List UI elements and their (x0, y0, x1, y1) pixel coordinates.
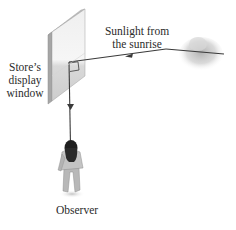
observer-legs (63, 168, 80, 192)
window-edge (48, 32, 52, 104)
window-label-line3: window (3, 87, 47, 100)
window-label-line2: display (3, 74, 47, 87)
arrowhead-down-icon (67, 104, 74, 110)
sun-core (189, 37, 207, 51)
observer-label: Observer (53, 204, 101, 217)
sunlight-label-line2: the sunrise (96, 38, 178, 51)
observer (58, 140, 85, 198)
display-window (48, 9, 85, 104)
window-label: Store’s display window (3, 61, 47, 100)
sunlight-label-line1: Sunlight from (96, 25, 178, 38)
window-label-line1: Store’s (3, 61, 47, 74)
sunlight-label: Sunlight from the sunrise (96, 25, 178, 51)
window-face (52, 9, 85, 101)
sun (179, 37, 223, 71)
